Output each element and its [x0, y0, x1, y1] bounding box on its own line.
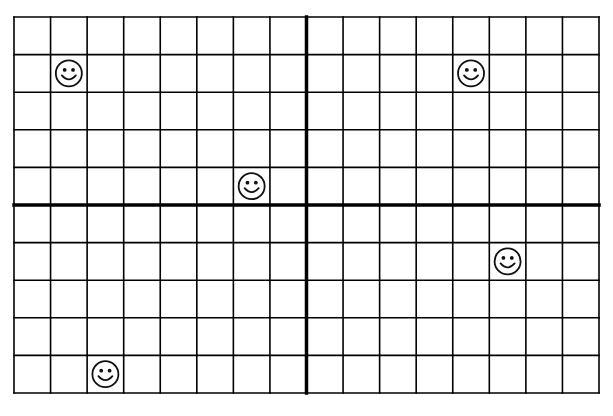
face-eye: [501, 256, 505, 260]
coordinate-grid: [0, 0, 613, 416]
face-eye: [254, 181, 258, 185]
face-eye: [108, 369, 112, 373]
smiley-face-icon: [495, 248, 521, 274]
face-outline: [56, 60, 82, 86]
markers: [56, 60, 521, 387]
face-eye: [473, 68, 477, 72]
face-eye: [63, 68, 67, 72]
smiley-face-icon: [56, 60, 82, 86]
face-eye: [510, 256, 514, 260]
axes: [14, 17, 599, 393]
face-eye: [71, 68, 75, 72]
face-outline: [239, 173, 265, 199]
face-eye: [246, 181, 250, 185]
smiley-face-icon: [239, 173, 265, 199]
face-outline: [92, 361, 118, 387]
face-outline: [458, 60, 484, 86]
smiley-face-icon: [458, 60, 484, 86]
face-eye: [465, 68, 469, 72]
face-eye: [99, 369, 103, 373]
smiley-face-icon: [92, 361, 118, 387]
face-outline: [495, 248, 521, 274]
